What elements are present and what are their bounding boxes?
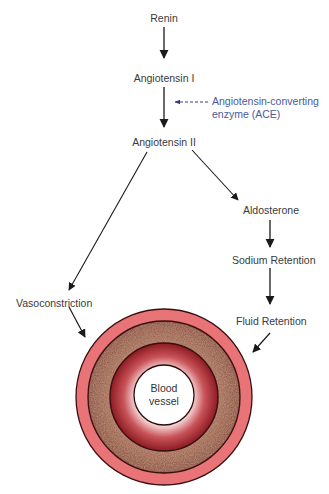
node-aldosterone: Aldosterone [243,204,299,216]
vessel-label: Blood vessel [149,382,179,408]
node-angiotensin-2: Angiotensin II [132,136,196,148]
enzyme-label-line2: enzyme (ACE) [212,108,319,121]
node-angiotensin-1: Angiotensin I [134,72,195,84]
arrow-ang2-to-vasoconstriction [69,152,147,290]
node-renin: Renin [150,12,177,24]
node-vasoconstriction: Vasoconstriction [16,297,92,309]
enzyme-label: Angiotensin-converting enzyme (ACE) [212,95,319,120]
arrow-fluid-to-vessel [253,333,270,352]
vessel-label-line2: vessel [149,395,179,408]
raas-diagram: Renin Angiotensin I Angiotensin II Aldos… [0,0,329,494]
node-fluid-retention: Fluid Retention [236,315,307,327]
vessel-label-line1: Blood [149,382,179,395]
enzyme-label-line1: Angiotensin-converting [212,95,319,108]
arrow-vasoconstriction-to-vessel [69,307,85,337]
arrow-ang2-to-aldosterone [192,150,238,200]
node-sodium-retention: Sodium Retention [232,254,315,266]
